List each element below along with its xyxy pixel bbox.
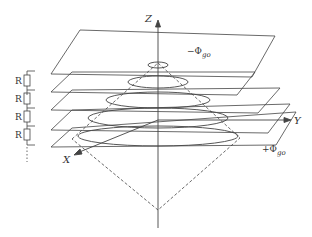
resistor-chain — [24, 71, 35, 162]
resistor-label-1: R — [15, 76, 22, 86]
x-axis-label: X — [62, 154, 71, 165]
resistor-label-2: R — [15, 94, 22, 104]
bottom-potential-label: +Φgo — [262, 144, 286, 157]
z-arrow-icon — [156, 20, 161, 27]
z-axis-label: Z — [144, 13, 153, 24]
cone-outline — [72, 63, 240, 210]
top-potential-label: −Φgo — [187, 46, 211, 59]
diagram-canvas: R R R R Z Y X −Φgo +Φgo — [0, 0, 312, 237]
plane-1 — [51, 30, 275, 77]
y-axis-label: Y — [294, 115, 302, 126]
resistor-label-4: R — [15, 130, 22, 140]
x-arrow-icon — [74, 149, 82, 155]
resistor-label-3: R — [15, 112, 22, 122]
